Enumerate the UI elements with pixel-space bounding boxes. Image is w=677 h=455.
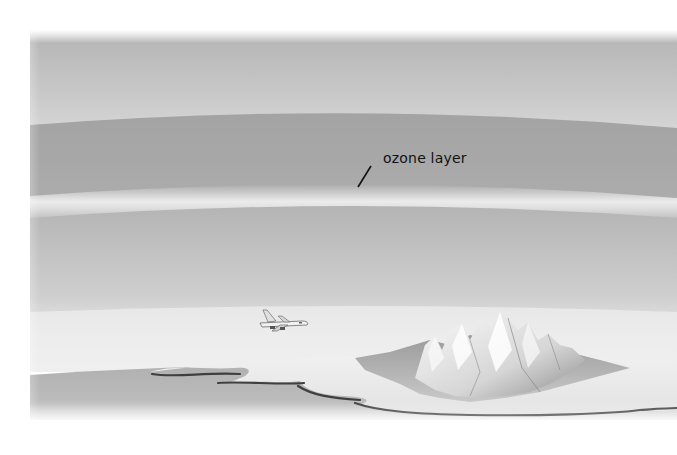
atmosphere-diagram: ozone layer — [0, 0, 677, 455]
top-fade — [0, 0, 677, 40]
ozone-layer-label: ozone layer — [383, 150, 467, 166]
atmosphere-illustration — [0, 0, 677, 455]
left-fade — [0, 0, 40, 455]
bottom-margin — [0, 430, 677, 455]
